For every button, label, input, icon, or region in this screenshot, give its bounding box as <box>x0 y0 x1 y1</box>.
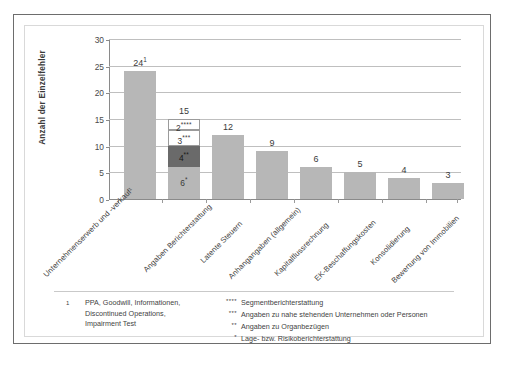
bar-segment <box>124 71 156 199</box>
footnote-item-lage-risiko: *Lage- bzw. Risikoberichterstattung <box>219 332 464 344</box>
footnote-divider <box>54 291 454 292</box>
bar-kapitalflussrechnung[interactable]: 6 <box>300 167 332 199</box>
x-tick-mark <box>457 199 458 203</box>
plot-area: 30 25 20 15 10 5 <box>109 39 461 199</box>
footnote-text: Lage- bzw. Risikoberichterstattung <box>241 334 351 343</box>
bar-segment <box>344 172 376 199</box>
bar-latente-steuern[interactable]: 12 <box>212 135 244 199</box>
footnote-text: Segmentberichterstattung <box>241 298 323 307</box>
bar-value-label: 241 <box>110 56 170 68</box>
footnote-marker: 1 <box>66 298 69 309</box>
bar-unternehmenserwerb[interactable]: 241 <box>124 71 156 199</box>
footnote-right: ****Segmentberichterstattung ***Angaben … <box>219 296 464 344</box>
y-tick-label-20: 20 <box>95 88 104 98</box>
x-tick-mark <box>382 199 383 203</box>
y-tick-label-30: 30 <box>95 35 104 45</box>
x-axis-label-konsolidierung: Konsolidierung <box>369 224 412 267</box>
gridline-15: 15 <box>109 119 461 120</box>
y-tick-label-5: 5 <box>99 168 104 178</box>
footnote-item-nahestehende: ***Angaben zu nahe stehenden Unternehmen… <box>219 308 464 320</box>
bar-chart: Anzahl der Einzelfehler 30 25 20 15 <box>14 15 492 345</box>
footnote-marker: *** <box>219 308 237 320</box>
bar-value-label: 3 <box>418 170 478 180</box>
footnote-marker: ** <box>219 320 237 332</box>
footnote-left: 1 PPA, Goodwill, Informationen, Disconti… <box>66 298 191 330</box>
bar-value-label: 12 <box>198 122 258 132</box>
footnote-text: Angaben zu Organbezügen <box>241 322 329 331</box>
x-axis-label-bewertung-immobilien: Bewertung von Immobilien <box>390 214 461 285</box>
y-tick-label-15: 15 <box>95 115 104 125</box>
footnote-text: Angaben zu nahe stehenden Unternehmen od… <box>241 310 428 319</box>
bar-segment <box>256 151 288 199</box>
x-tick-mark <box>338 199 339 203</box>
bar-segment-organbezuege: 4** <box>168 146 200 167</box>
bar-segment-segmentberichterstattung: 2**** <box>168 119 200 130</box>
segment-value-label: 2**** <box>169 121 199 133</box>
bar-ek-beschaffungskosten[interactable]: 5 <box>344 172 376 199</box>
bar-segment <box>212 135 244 199</box>
bar-konsolidierung[interactable]: 4 <box>388 178 420 199</box>
footnote-line: Discontinued Operations, <box>85 309 191 320</box>
bar-anhangangaben[interactable]: 9 <box>256 151 288 199</box>
segment-value-label: 4** <box>168 151 200 163</box>
x-axis-label-unternehmenserwerb: Unternehmenserwerb und -verkauf¹ <box>42 186 135 279</box>
bar-segment <box>432 183 464 199</box>
footnote-line: PPA, Goodwill, Informationen, <box>85 298 191 309</box>
bar-total-value-label: 15 <box>154 106 214 116</box>
segment-value-label: 3*** <box>169 134 199 146</box>
y-tick-label-25: 25 <box>95 62 104 72</box>
footnote-line: Impairment Test <box>85 319 191 330</box>
footnote-item-segmentberichterstattung: ****Segmentberichterstattung <box>219 296 464 308</box>
y-tick-label-10: 10 <box>95 142 104 152</box>
bar-segment <box>300 167 332 199</box>
footnote-item-organbezuege: **Angaben zu Organbezügen <box>219 320 464 332</box>
x-tick-mark <box>162 199 163 203</box>
x-axis-label-latente-steuern: Latente Steuern <box>199 219 245 265</box>
bar-value-label: 9 <box>242 138 302 148</box>
footnote-marker: * <box>219 332 237 344</box>
chart-outer-frame: Anzahl der Einzelfehler 30 25 20 15 <box>13 14 491 344</box>
x-tick-mark <box>250 199 251 203</box>
x-axis-label-anhangangaben: Anhangangaben (allgemein) <box>227 205 303 281</box>
bar-segment-lage-risiko: 6* <box>168 167 200 199</box>
gridline-20: 20 <box>109 92 461 93</box>
bar-bewertung-immobilien[interactable]: 3 <box>432 183 464 199</box>
y-tick-label-0: 0 <box>99 195 104 205</box>
footnote-marker: **** <box>219 296 237 308</box>
segment-value-label: 6* <box>168 176 200 188</box>
y-axis-title: Anzahl der Einzelfehler <box>38 23 47 173</box>
bar-segment <box>388 178 420 199</box>
gridline-30: 30 <box>109 39 461 40</box>
x-tick-mark <box>294 199 295 203</box>
x-tick-mark <box>426 199 427 203</box>
bar-angaben-berichterstattung[interactable]: 6* 4** 3*** 2**** <box>168 119 200 199</box>
